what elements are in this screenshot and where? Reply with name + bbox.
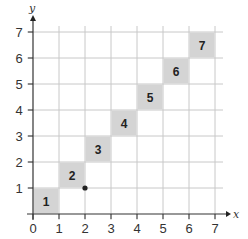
shaded-square-4: 4 xyxy=(112,111,137,136)
shaded-square-6: 6 xyxy=(164,59,189,84)
y-tick-label: 4 xyxy=(15,103,22,118)
x-tick-label: 1 xyxy=(55,221,62,236)
y-axis-arrow-icon xyxy=(30,15,36,21)
square-label: 1 xyxy=(43,195,50,209)
shaded-square-1: 1 xyxy=(34,189,59,214)
y-tick-label: 6 xyxy=(15,51,22,66)
y-tick-label: 1 xyxy=(15,181,22,196)
coordinate-grid-chart: 1234567 x y 012345671234567 xyxy=(0,0,248,239)
square-label: 5 xyxy=(147,91,154,105)
data-points xyxy=(82,185,87,190)
x-tick-label: 6 xyxy=(185,221,192,236)
square-label: 6 xyxy=(173,65,180,79)
x-tick-label: 4 xyxy=(133,221,140,236)
y-tick-label: 7 xyxy=(15,25,22,40)
x-axis-arrow-icon xyxy=(226,211,231,217)
x-tick-label: 5 xyxy=(159,221,166,236)
square-label: 7 xyxy=(199,39,206,53)
y-axis-label: y xyxy=(28,2,36,15)
square-label: 4 xyxy=(121,117,128,131)
square-label: 2 xyxy=(69,169,76,183)
point-marker xyxy=(82,185,87,190)
x-tick-label: 3 xyxy=(107,221,114,236)
y-tick-label: 2 xyxy=(15,155,22,170)
x-tick-label: 0 xyxy=(29,221,36,236)
shaded-square-3: 3 xyxy=(86,137,111,162)
shaded-square-7: 7 xyxy=(190,33,215,58)
y-tick-label: 5 xyxy=(15,77,22,92)
square-label: 3 xyxy=(95,143,102,157)
y-tick-label: 3 xyxy=(15,129,22,144)
x-tick-label: 7 xyxy=(211,221,218,236)
x-tick-label: 2 xyxy=(81,221,88,236)
shaded-square-5: 5 xyxy=(138,85,163,110)
shaded-squares: 1234567 xyxy=(34,33,215,214)
shaded-square-2: 2 xyxy=(60,163,85,188)
x-axis-label: x xyxy=(233,208,240,221)
